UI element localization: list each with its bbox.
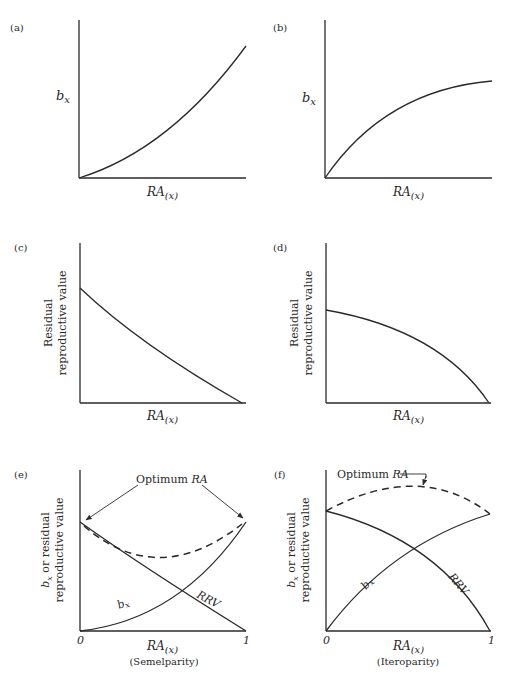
svg-text:Residual: Residual [288,298,301,347]
x-tick-1: 1 [488,634,495,647]
optimum-ra-annotation: Optimum RA [136,473,208,486]
x-axis-label: RA(x) [392,639,424,655]
svg-text:reproductive value: reproductive value [302,270,315,375]
y-axis-label: bx or residual reproductive value [39,497,66,602]
panel-f: (f) Optimum RA bx RRV bx or residual rep… [274,468,495,667]
panel-e: (e) Optimum RA bx RRV bx or residual rep… [14,469,250,667]
panel-label-f: (f) [274,469,286,480]
x-tick-0: 0 [323,634,330,647]
rrv-curve [326,310,489,403]
svg-text:Residual: Residual [42,298,55,347]
optimum-ra-annotation: Optimum RA [337,468,409,481]
rrv-curve-label: RRV [445,570,472,598]
y-axis-label: bx [302,90,316,107]
x-tick-0: 0 [77,634,84,647]
panel-caption: (Semelparity) [129,656,198,667]
panel-label-e: (e) [14,469,28,480]
panel-label-d: (d) [273,242,287,253]
arrow-right [202,485,243,518]
panel-label-c: (c) [14,242,28,253]
x-axis-label: RA(x) [392,409,424,425]
x-axis-label: RA(x) [146,185,178,201]
bx-curve [326,514,490,631]
svg-text:reproductive value: reproductive value [299,497,312,602]
rrv-curve [326,511,490,631]
arrow-optimum [423,476,426,485]
y-axis-label: Residual reproductive value [288,270,315,375]
y-axis-label: Residual reproductive value [42,270,69,375]
panel-label-b: (b) [273,22,287,33]
y-axis-label: bx [56,88,70,105]
svg-text:reproductive value: reproductive value [53,497,66,602]
panel-caption: (Iteroparity) [377,656,440,667]
svg-text:bx or residual: bx or residual [285,512,300,588]
panel-a: (a) bx RA(x) [10,20,246,201]
svg-text:reproductive value: reproductive value [56,270,69,375]
x-axis-label: RA(x) [146,409,178,425]
panel-c: (c) Residual reproductive value RA(x) [14,242,246,425]
panel-b: (b) bx RA(x) [273,20,492,201]
y-axis-label: bx or residual reproductive value [285,497,312,602]
x-tick-1: 1 [243,634,250,647]
arrow-left [86,485,138,520]
bx-curve-label: bx [115,595,131,612]
figure-canvas: (a) bx RA(x) (b) bx RA(x) (c) Residual r… [0,0,508,677]
panel-d: (d) Residual reproductive value RA(x) [273,242,491,425]
bx-curve [325,81,492,178]
svg-text:bx or residual: bx or residual [39,512,54,588]
sum-curve-dashed [326,486,490,514]
panel-label-a: (a) [10,22,24,33]
rrv-curve [80,288,242,403]
x-axis-label: RA(x) [392,185,424,201]
x-axis-label: RA(x) [146,639,178,655]
bx-curve [79,46,246,178]
